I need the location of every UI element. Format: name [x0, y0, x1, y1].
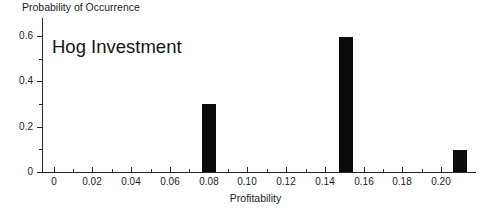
y-tick-label: 0.4	[0, 76, 33, 86]
x-minor-tick	[383, 169, 384, 172]
y-minor-tick	[39, 59, 42, 60]
x-tick-label: 0.04	[111, 176, 151, 187]
x-axis-label: Profitability	[230, 192, 281, 204]
x-tick-label: 0.12	[266, 176, 306, 187]
x-tick	[286, 167, 287, 172]
y-tick	[37, 36, 42, 37]
x-minor-tick	[151, 169, 152, 172]
x-minor-tick	[306, 169, 307, 172]
x-minor-tick	[73, 169, 74, 172]
bar	[339, 37, 353, 172]
x-tick-label: 0.18	[382, 176, 422, 187]
y-axis-label: Probability of Occurrence	[22, 1, 140, 13]
x-tick	[402, 167, 403, 172]
y-tick-label: 0	[0, 167, 33, 177]
x-tick-label: 0.20	[421, 176, 461, 187]
x-tick	[131, 167, 132, 172]
x-tick-label: 0.02	[72, 176, 112, 187]
x-tick	[54, 167, 55, 172]
x-tick	[92, 167, 93, 172]
x-axis-label-wrap: Profitability	[0, 192, 487, 205]
x-minor-tick	[228, 169, 229, 172]
chart-title: Hog Investment	[52, 36, 182, 58]
x-tick-label: 0.10	[227, 176, 267, 187]
y-minor-tick	[39, 149, 42, 150]
y-tick	[37, 127, 42, 128]
x-tick-label: 0.16	[344, 176, 384, 187]
y-tick-label: 0.2	[0, 122, 33, 132]
x-minor-tick	[189, 169, 190, 172]
x-tick	[325, 167, 326, 172]
probability-histogram: Probability of Occurrence Hog Investment…	[0, 0, 487, 213]
x-tick	[441, 167, 442, 172]
x-tick-label: 0.14	[305, 176, 345, 187]
x-tick	[247, 167, 248, 172]
x-minor-tick	[112, 169, 113, 172]
x-tick	[364, 167, 365, 172]
x-axis-line	[42, 172, 476, 173]
y-minor-tick	[39, 104, 42, 105]
y-tick	[37, 172, 42, 173]
bar	[202, 104, 216, 172]
y-axis-line	[42, 18, 43, 173]
x-minor-tick	[422, 169, 423, 172]
x-minor-tick	[267, 169, 268, 172]
y-tick-label: 0.6	[0, 31, 33, 41]
x-tick-label: 0.08	[189, 176, 229, 187]
y-tick	[37, 81, 42, 82]
x-tick	[170, 167, 171, 172]
x-tick-label: 0	[34, 176, 74, 187]
bar	[453, 150, 467, 172]
x-tick-label: 0.06	[150, 176, 190, 187]
